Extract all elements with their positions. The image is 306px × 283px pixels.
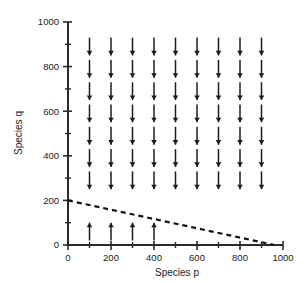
arrow-head <box>108 185 114 190</box>
arrow-head <box>237 185 243 190</box>
field-arrow-down <box>108 127 114 145</box>
field-arrow-down <box>173 149 179 167</box>
arrow-head <box>237 95 243 100</box>
field-arrow-down <box>130 60 136 78</box>
arrow-head <box>87 223 93 228</box>
field-arrow-down <box>151 82 157 100</box>
field-arrow-down <box>130 82 136 100</box>
arrow-head <box>259 51 265 56</box>
field-arrow-down <box>108 149 114 167</box>
field-arrow-up <box>87 223 93 241</box>
field-arrow-down <box>151 60 157 78</box>
field-arrow-down <box>87 127 93 145</box>
field-arrow-down <box>173 105 179 123</box>
arrow-head <box>194 118 200 123</box>
arrow-head <box>237 73 243 78</box>
arrow-head <box>108 73 114 78</box>
tick-labels-group: 0200400600800100002004006008001000 <box>38 16 294 263</box>
field-arrow-up <box>130 223 136 241</box>
arrow-head <box>173 140 179 145</box>
field-arrow-down <box>87 171 93 189</box>
field-arrow-down <box>173 171 179 189</box>
field-arrow-down <box>237 171 243 189</box>
arrow-head <box>87 95 93 100</box>
field-arrow-down <box>194 60 200 78</box>
arrow-head <box>216 95 222 100</box>
arrow-head <box>173 51 179 56</box>
field-arrow-down <box>173 60 179 78</box>
nullcline-line <box>68 200 274 245</box>
arrow-head <box>216 185 222 190</box>
field-arrow-down <box>237 82 243 100</box>
arrow-head <box>194 73 200 78</box>
field-arrow-up <box>108 223 114 241</box>
arrow-head <box>108 162 114 167</box>
field-arrow-down <box>216 60 222 78</box>
field-arrow-down <box>108 171 114 189</box>
phase-plane-figure: 0200400600800100002004006008001000 Speci… <box>0 0 306 283</box>
arrow-head <box>130 140 136 145</box>
field-arrow-down <box>130 105 136 123</box>
arrow-head <box>259 73 265 78</box>
field-arrow-down <box>237 60 243 78</box>
arrow-head <box>237 162 243 167</box>
field-arrow-down <box>151 105 157 123</box>
field-arrow-down <box>130 149 136 167</box>
y-tick-label: 0 <box>54 239 59 250</box>
field-arrow-down <box>108 38 114 56</box>
field-arrow-down <box>87 82 93 100</box>
arrow-head <box>151 140 157 145</box>
field-arrow-down <box>259 171 265 189</box>
field-arrow-down <box>194 105 200 123</box>
arrow-head <box>87 140 93 145</box>
field-arrow-down <box>151 149 157 167</box>
arrow-head <box>130 162 136 167</box>
x-tick-label: 600 <box>189 252 205 263</box>
y-tick-label: 200 <box>43 195 59 206</box>
y-tick-label: 400 <box>43 150 59 161</box>
arrow-head <box>216 73 222 78</box>
arrow-head <box>173 162 179 167</box>
arrow-head <box>173 185 179 190</box>
arrow-head <box>173 118 179 123</box>
field-arrow-down <box>130 38 136 56</box>
field-arrow-down <box>216 82 222 100</box>
direction-field-chart: 0200400600800100002004006008001000 Speci… <box>0 0 306 283</box>
arrow-head <box>216 140 222 145</box>
arrow-head <box>237 51 243 56</box>
field-arrow-down <box>87 105 93 123</box>
arrow-head <box>108 223 114 228</box>
arrow-head <box>216 118 222 123</box>
field-arrow-down <box>237 105 243 123</box>
field-arrow-down <box>259 82 265 100</box>
x-tick-label: 0 <box>65 252 70 263</box>
arrow-head <box>151 73 157 78</box>
x-tick-label: 1000 <box>272 252 293 263</box>
field-arrow-down <box>87 149 93 167</box>
field-arrow-down <box>259 105 265 123</box>
field-arrow-down <box>194 149 200 167</box>
arrow-head <box>87 51 93 56</box>
x-tick-label: 800 <box>232 252 248 263</box>
y-tick-label: 800 <box>43 61 59 72</box>
arrow-head <box>259 95 265 100</box>
field-arrow-down <box>151 171 157 189</box>
field-arrow-down <box>108 82 114 100</box>
arrow-head <box>87 185 93 190</box>
arrow-head <box>151 118 157 123</box>
arrow-head <box>130 185 136 190</box>
field-arrow-down <box>216 127 222 145</box>
field-arrow-down <box>130 127 136 145</box>
arrow-head <box>194 162 200 167</box>
arrow-head <box>173 73 179 78</box>
field-arrow-down <box>237 38 243 56</box>
field-arrow-down <box>194 38 200 56</box>
arrow-head <box>87 118 93 123</box>
field-arrow-down <box>237 149 243 167</box>
arrow-head <box>237 140 243 145</box>
arrow-head <box>87 162 93 167</box>
arrow-head <box>151 185 157 190</box>
nullcline-group <box>68 200 274 245</box>
arrow-head <box>237 118 243 123</box>
arrow-head <box>216 51 222 56</box>
